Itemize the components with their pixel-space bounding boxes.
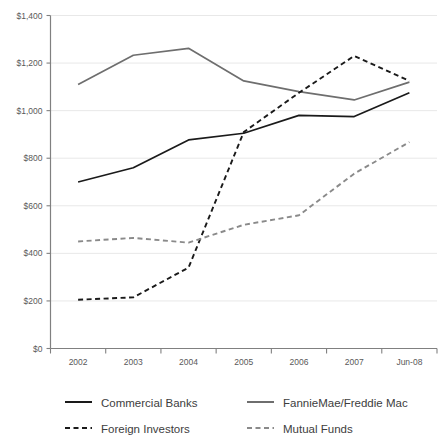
x-tick-label: 2002	[69, 357, 88, 367]
x-tick-label: 2006	[290, 357, 309, 367]
y-tick-label: $1,400	[17, 11, 43, 21]
legend-label: Foreign Investors	[101, 423, 190, 435]
legend-label: Mutual Funds	[283, 423, 353, 435]
legend-item-foreign-investors[interactable]: Foreign Investors	[65, 423, 190, 435]
legend-item-fanniemae-freddie-mac[interactable]: FannieMae/Freddie Mac	[247, 397, 408, 409]
legend-item-commercial-banks[interactable]: Commercial Banks	[65, 397, 198, 409]
tick-marks	[47, 16, 438, 354]
legend-label: FannieMae/Freddie Mac	[283, 397, 408, 409]
x-tick-label: 2005	[234, 357, 253, 367]
y-tick-label: $600	[24, 201, 43, 211]
chart-container: $0$200$400$600$800$1,000$1,200$1,400 200…	[0, 0, 445, 447]
y-tick-label: $0	[33, 344, 43, 354]
legend-label: Commercial Banks	[101, 397, 198, 409]
series-line-foreign-investors	[78, 56, 409, 300]
x-tick-label: Jun-08	[396, 357, 422, 367]
line-chart: $0$200$400$600$800$1,000$1,200$1,400 200…	[0, 0, 445, 447]
x-tick-label: 2003	[124, 357, 143, 367]
y-tick-label: $200	[24, 296, 43, 306]
x-axis-tick-labels: 200220032004200520062007Jun-08	[69, 357, 423, 367]
x-tick-label: 2004	[179, 357, 198, 367]
chart-legend: Commercial BanksFannieMae/Freddie MacFor…	[65, 397, 408, 435]
series-line-mutual-funds	[78, 142, 409, 243]
x-tick-label: 2007	[345, 357, 364, 367]
data-series	[78, 48, 409, 299]
y-tick-label: $800	[24, 153, 43, 163]
legend-item-mutual-funds[interactable]: Mutual Funds	[247, 423, 353, 435]
y-tick-label: $1,200	[17, 58, 43, 68]
series-line-fanniemae-freddie-mac	[78, 48, 409, 100]
series-line-commercial-banks	[78, 93, 409, 182]
y-tick-label: $400	[24, 248, 43, 258]
y-tick-label: $1,000	[17, 106, 43, 116]
y-axis-tick-labels: $0$200$400$600$800$1,000$1,200$1,400	[17, 11, 43, 354]
